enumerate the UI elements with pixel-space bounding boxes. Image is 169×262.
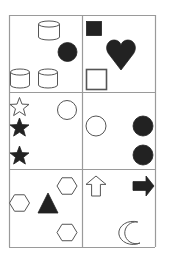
outline-star-icon [10, 98, 29, 116]
filled-star-icon [10, 146, 29, 164]
filled-triangle-icon [38, 193, 58, 213]
outline-circle-icon [58, 101, 77, 120]
outline-arrow-up-icon [86, 176, 106, 196]
cells [10, 21, 155, 244]
outline-cylinder-icon [11, 69, 30, 88]
filled-circle-icon [133, 116, 153, 136]
filled-arrow-right-icon [133, 176, 154, 196]
outline-crescent-icon [119, 221, 140, 244]
puzzle-canvas [0, 0, 169, 262]
cell-r2-c1 [10, 98, 77, 165]
cell-r1-c2 [87, 22, 136, 90]
outline-hexagon-icon [10, 195, 30, 211]
outline-hexagon-icon [57, 224, 77, 240]
outline-cylinder-icon [39, 69, 58, 88]
cell-r3-c1 [10, 178, 78, 241]
outline-hexagon-icon [57, 178, 77, 194]
outline-circle-icon [86, 116, 106, 136]
filled-circle-icon [133, 145, 153, 165]
filled-heart-icon [107, 40, 136, 70]
outline-square-icon [87, 70, 107, 90]
filled-circle-icon [58, 43, 77, 62]
shape-grid-puzzle [0, 0, 169, 262]
outline-cylinder-icon [39, 21, 60, 40]
cell-r1-c1 [11, 21, 78, 88]
cell-r3-c2 [86, 176, 154, 244]
filled-star-icon [10, 118, 29, 136]
cell-r2-c2 [86, 116, 153, 165]
filled-square-icon [87, 22, 102, 36]
